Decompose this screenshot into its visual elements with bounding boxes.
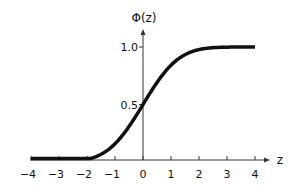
y-axis-label: Φ(z) [131,11,156,25]
y-tick-label: 1.0 [121,41,139,54]
x-tick-label: 4 [252,168,259,181]
x-tick-label: −1 [104,168,120,181]
x-tick-label: 1 [168,168,175,181]
x-tick-label: 2 [196,168,203,181]
x-tick-label: 3 [224,168,231,181]
x-tick-label: −3 [48,168,64,181]
y-axis-arrow-icon [141,29,146,35]
x-tick-label: −4 [20,168,36,181]
y-tick-label: 0.5 [121,99,139,112]
x-axis-arrow-icon [264,158,270,163]
x-axis-label: z [277,153,283,167]
cdf-chart: −4−3−2−1012340.51.0 Φ(z) z [0,0,296,188]
x-tick-label: 0 [140,168,147,181]
x-tick-label: −2 [76,168,92,181]
